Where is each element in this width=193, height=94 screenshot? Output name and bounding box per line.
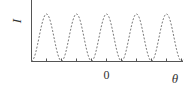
- x-axis-label: θ: [172, 71, 179, 86]
- y-axis-label: I: [9, 18, 24, 24]
- intensity-curve: [31, 14, 183, 61]
- interference-figure: I 0 θ: [0, 0, 193, 94]
- x-tick-label-zero: 0: [104, 68, 110, 82]
